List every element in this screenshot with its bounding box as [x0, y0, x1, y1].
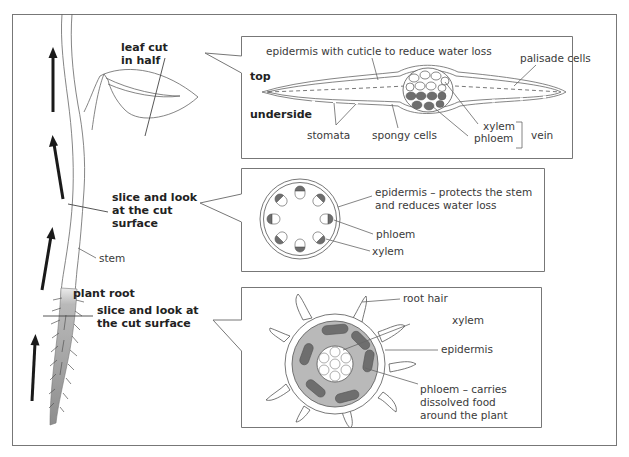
root-phloem-label-2: dissolved food — [420, 396, 496, 408]
leaf-cut-label-2: in half — [121, 54, 160, 67]
stem-slice-label-3: surface — [112, 217, 158, 230]
stomata-label: stomata — [307, 129, 350, 141]
leaf-cut-label-1: leaf cut — [121, 41, 168, 54]
leaf-phloem-label: phloem — [474, 132, 513, 144]
leaf-xylem-label: xylem — [483, 120, 515, 132]
plant-transport-diagram: leaf cut in half slice and look at the c… — [0, 0, 629, 457]
stem-epidermis-label-2: and reduces water loss — [375, 199, 497, 211]
stem-slice-label-1: slice and look — [112, 191, 198, 204]
root-slice-label-2: the cut surface — [97, 317, 191, 330]
top-label: top — [250, 70, 271, 83]
root-phloem-label-3: around the plant — [420, 409, 508, 421]
root-cross-section-panel: root hair xylem epidermis phloem – carri… — [213, 288, 542, 429]
leaf-cross-section-panel: epidermis with cuticle to reduce water l… — [205, 37, 591, 159]
root-phloem-label-1: phloem – carries — [420, 383, 507, 395]
root-epidermis-label: epidermis — [441, 343, 493, 355]
root-hair-label: root hair — [403, 292, 448, 304]
palisade-label: palisade cells — [520, 52, 591, 64]
underside-label: underside — [250, 108, 312, 121]
vein-label: vein — [531, 129, 553, 141]
stem-label: stem — [99, 252, 125, 264]
stem-slice-label-2: at the cut — [112, 204, 173, 217]
plant-root-label: plant root — [73, 287, 135, 300]
leaf-epidermis-label: epidermis with cuticle to reduce water l… — [266, 45, 492, 57]
stem-phloem-label: phloem — [376, 228, 415, 240]
root-xylem-label: xylem — [452, 314, 484, 326]
stem-xylem-label: xylem — [372, 245, 404, 257]
root-slice-label-1: slice and look at — [97, 304, 199, 317]
stem-epidermis-label-1: epidermis – protects the stem — [375, 186, 532, 198]
spongy-label: spongy cells — [372, 129, 437, 141]
stem-cross-section-panel: epidermis – protects the stem and reduce… — [200, 169, 545, 272]
